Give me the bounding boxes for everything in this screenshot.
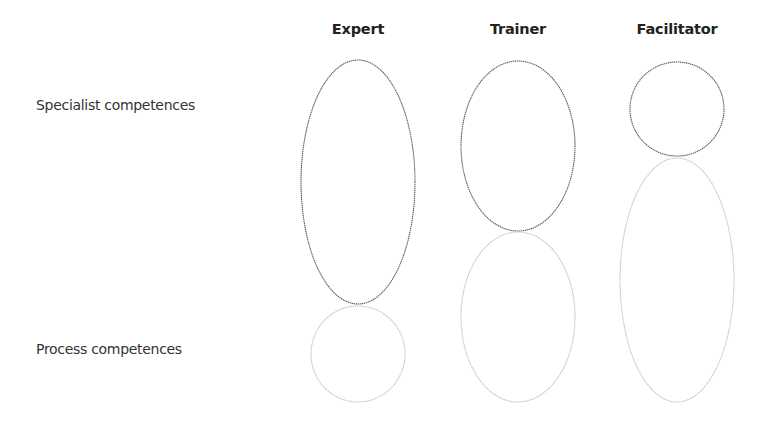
expert-specialist-ellipse	[301, 60, 415, 304]
trainer-process-ellipse	[461, 232, 575, 402]
trainer-specialist-ellipse	[461, 61, 575, 231]
competence-diagram	[0, 0, 759, 427]
facilitator-specialist-circle	[630, 62, 724, 156]
expert-process-circle	[311, 306, 405, 402]
facilitator-process-ellipse	[620, 158, 734, 402]
